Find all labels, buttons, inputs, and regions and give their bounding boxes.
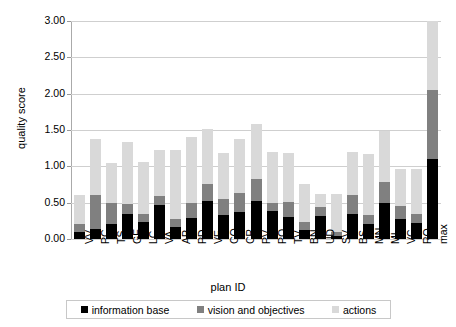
x-axis-tick-label: PD [197, 229, 208, 244]
bar-segment [347, 152, 358, 195]
bar-column[interactable] [363, 21, 374, 239]
bar-segment [363, 154, 374, 215]
bar-column[interactable] [234, 21, 245, 239]
y-axis-tick-label: 0.00 [29, 233, 65, 243]
bar-segment [427, 90, 438, 159]
bar-column[interactable] [331, 21, 342, 239]
bar-segment [283, 153, 294, 202]
bar-segment [267, 152, 278, 204]
bar-column[interactable] [202, 21, 213, 239]
bar-segment [90, 195, 101, 229]
square-swatch-icon [332, 306, 339, 313]
bar-segment [154, 196, 165, 205]
bar-segment [267, 203, 278, 211]
bar-column[interactable] [251, 21, 262, 239]
bar-segment [315, 207, 326, 216]
bar-column[interactable] [138, 21, 149, 239]
y-axis-tick [67, 239, 71, 240]
bar-segment [218, 199, 229, 215]
bar-column[interactable] [411, 21, 422, 239]
y-axis-tick [67, 166, 71, 167]
bar-segment [186, 203, 197, 218]
bar-column[interactable] [106, 21, 117, 239]
bar-column[interactable] [170, 21, 181, 239]
y-axis-tick [67, 94, 71, 95]
y-axis-tick [67, 57, 71, 58]
bar-column[interactable] [122, 21, 133, 239]
bar-segment [202, 184, 213, 201]
y-axis-tick-label: 0.50 [29, 197, 65, 207]
x-axis-tick-label: BS [358, 230, 369, 244]
bar-segment [411, 214, 422, 223]
legend-label: actions [343, 304, 376, 316]
bar-column[interactable] [379, 21, 390, 239]
bar-segment [379, 182, 390, 204]
y-axis-tick-label: 2.00 [29, 88, 65, 98]
bar-column[interactable] [299, 21, 310, 239]
y-axis-title: quality score [15, 63, 27, 173]
bar-segment [74, 195, 85, 224]
bar-segment [251, 179, 262, 201]
bar-segment [411, 169, 422, 214]
bar-segment [154, 150, 165, 197]
bar-segment [138, 162, 149, 214]
bar-segment [331, 194, 342, 233]
legend-item[interactable]: actions [332, 304, 376, 316]
bar-segment [90, 139, 101, 195]
bar-column[interactable] [90, 21, 101, 239]
y-axis-tick-label: 1.50 [29, 124, 65, 134]
y-axis-tick-label: 2.50 [29, 51, 65, 61]
square-swatch-icon [81, 306, 88, 313]
x-axis-tick-label: PC [100, 229, 111, 244]
bar-segment [347, 195, 358, 215]
x-axis-tick-label: LC [148, 231, 159, 244]
bar-column[interactable] [154, 21, 165, 239]
bar-segment [106, 163, 117, 204]
y-axis-tick [67, 130, 71, 131]
bar-segment [395, 169, 406, 206]
bar-column[interactable] [267, 21, 278, 239]
legend-item[interactable]: information base [81, 304, 170, 316]
bar-segment [234, 193, 245, 212]
bar-segment [170, 150, 181, 218]
plot-area [71, 21, 441, 239]
x-axis-tick-label: MI [390, 232, 401, 244]
x-axis-tick-label: RO [422, 228, 433, 244]
bar-segment [106, 203, 117, 224]
legend-label: vision and objectives [208, 304, 305, 316]
bar-segment [122, 204, 133, 214]
x-axis-tick-label: TS [116, 231, 127, 244]
x-axis-tick-label: PV [261, 230, 272, 244]
bar-column[interactable] [427, 21, 438, 239]
bar-column[interactable] [315, 21, 326, 239]
bar-column[interactable] [218, 21, 229, 239]
bar-segment [379, 131, 390, 182]
bar-segment [234, 139, 245, 194]
bar-segment [186, 137, 197, 202]
x-axis-tick-label: VC [406, 229, 417, 244]
square-swatch-icon [197, 306, 204, 313]
stacked-bar-chart: quality score 3.002.502.001.501.000.500.… [0, 0, 456, 327]
bar-segment [251, 124, 262, 179]
bar-segment [122, 142, 133, 204]
bar-column[interactable] [186, 21, 197, 239]
bar-column[interactable] [283, 21, 294, 239]
bar-column[interactable] [74, 21, 85, 239]
bar-segment [299, 184, 310, 223]
x-axis-tick-label: SV [341, 230, 352, 244]
x-axis-title: plan ID [0, 281, 456, 293]
x-axis-tick-label: VA [164, 231, 175, 244]
bar-column[interactable] [347, 21, 358, 239]
y-axis-tick-label: 3.00 [29, 15, 65, 25]
x-axis-tick-label: VV [84, 230, 95, 244]
legend-item[interactable]: vision and objectives [197, 304, 305, 316]
bar-segment [283, 202, 294, 217]
bar-segment [138, 214, 149, 222]
x-axis-tick-label: UD [325, 229, 336, 244]
bar-segment [395, 206, 406, 220]
x-axis-tick-label: GE [132, 229, 143, 244]
bar-column[interactable] [395, 21, 406, 239]
x-axis-tick-label: AP [181, 230, 192, 244]
x-axis-tick-label: max [438, 224, 449, 244]
legend-label: information base [92, 304, 170, 316]
